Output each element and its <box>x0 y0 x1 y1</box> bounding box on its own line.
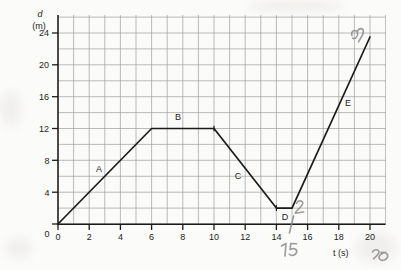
y-tick-label-12: 12 <box>39 124 49 134</box>
y-tick-label-20: 20 <box>39 60 49 70</box>
graph-canvas: 0 4 8 12 16 20 24 0 2 4 6 8 10 12 14 16 … <box>0 0 401 270</box>
x-axis-title: t (s) <box>333 248 349 258</box>
x-tick-label-16: 16 <box>303 232 313 242</box>
handwritten-fifteen-five <box>289 244 297 256</box>
x-tick-label-2: 2 <box>87 232 92 242</box>
x-tick-label-20: 20 <box>365 232 375 242</box>
handwritten-scribble <box>352 29 364 42</box>
axis-lines <box>58 15 386 225</box>
grid-lines <box>58 15 386 224</box>
segment-label-b: B <box>175 112 181 122</box>
segment-label-c: C <box>235 171 242 181</box>
segment-label-d: D <box>282 212 289 222</box>
segment-label-e: E <box>345 98 351 108</box>
x-tick-label-8: 8 <box>180 232 185 242</box>
y-tick-label-4: 4 <box>44 188 49 198</box>
y-axis-unit: (m) <box>32 21 46 31</box>
handwritten-twenty-two <box>373 250 380 259</box>
x-tick-label-18: 18 <box>334 232 344 242</box>
x-tick-label-6: 6 <box>149 232 154 242</box>
x-tick-label-12: 12 <box>240 232 250 242</box>
segment-label-a: A <box>96 164 102 174</box>
handwritten-fifteen-one <box>282 244 287 257</box>
x-tick-label-0: 0 <box>55 232 60 242</box>
x-tick-label-4: 4 <box>118 232 123 242</box>
y-tick-label-0: 0 <box>44 229 49 239</box>
y-tick-marks <box>52 33 58 224</box>
y-tick-labels: 0 4 8 12 16 20 24 <box>39 28 50 238</box>
y-tick-label-16: 16 <box>39 92 49 102</box>
x-tick-label-14: 14 <box>271 232 281 242</box>
y-axis-symbol: d <box>37 9 43 19</box>
handwritten-two <box>295 201 303 213</box>
distance-time-chart: 0 4 8 12 16 20 24 0 2 4 6 8 10 12 14 16 … <box>0 0 401 270</box>
handwritten-twenty-zero <box>379 252 388 260</box>
x-tick-label-10: 10 <box>209 232 219 242</box>
x-tick-labels: 0 2 4 6 8 10 12 14 16 18 20 <box>55 232 375 242</box>
y-tick-label-8: 8 <box>44 156 49 166</box>
